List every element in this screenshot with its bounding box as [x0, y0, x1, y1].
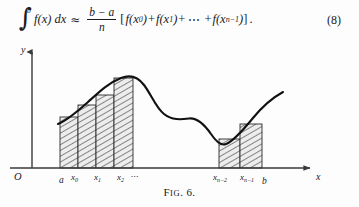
- fraction-numerator: b − a: [87, 6, 116, 19]
- tick-subscript-x1: 1: [98, 177, 101, 183]
- term-last: f(x: [212, 13, 225, 26]
- tick-label-b: b: [262, 176, 267, 186]
- tick-label-x0: x0: [70, 172, 78, 183]
- plus-2: +: [178, 13, 185, 26]
- tick-base-b: b: [262, 176, 267, 186]
- x-axis-label: x: [315, 171, 321, 182]
- approx-symbol: ≈: [70, 14, 80, 26]
- riemann-bars: [60, 78, 262, 168]
- term-2-close: ): [173, 13, 177, 26]
- bar-x1: [96, 95, 114, 168]
- term-last-subscript: n−1: [226, 16, 239, 24]
- x-tick-labels: ax0x1x2⋯xn−2xn−1b: [59, 172, 267, 186]
- bar-x0: [78, 105, 96, 168]
- integrand: f(x) dx: [34, 13, 66, 26]
- plus-1: +: [148, 13, 155, 26]
- fraction-denominator: n: [97, 20, 107, 33]
- caption-number: . 6.: [180, 186, 195, 198]
- tick-base-a: a: [59, 175, 64, 185]
- equation-ellipsis: ⋯: [186, 14, 203, 26]
- origin-label: O: [14, 171, 22, 182]
- figure-graphic: y x O ax0x1x2⋯xn−2xn−1b: [0, 38, 359, 186]
- equation-row: ∫ b a f(x) dx ≈ b − a n [ f(x0) + f(x1) …: [0, 4, 359, 38]
- plus-3: +: [204, 13, 211, 26]
- bracket-open: [: [120, 13, 124, 26]
- bar-a: [60, 117, 78, 168]
- riemann-sum-chart: y x O ax0x1x2⋯xn−2xn−1b: [0, 38, 359, 186]
- tick-label-x2: x2: [116, 172, 124, 183]
- term-2: f(x: [156, 13, 169, 26]
- tick-subscript-xn1: n−1: [244, 177, 254, 183]
- figure-page: ∫ b a f(x) dx ≈ b − a n [ f(x0) + f(x1) …: [0, 0, 359, 207]
- term-1: f(x: [126, 13, 139, 26]
- equation-period: .: [247, 13, 252, 26]
- tick-subscript-xn2: n−2: [217, 177, 227, 183]
- fraction: b − a n: [87, 6, 116, 33]
- tick-label-xn2: xn−2: [212, 172, 227, 183]
- tick-label-ellipsis: ⋯: [130, 172, 138, 181]
- tick-subscript-x2: 2: [121, 177, 124, 183]
- integral-upper-limit: b: [27, 7, 31, 15]
- tick-base-ellipsis: ⋯: [130, 172, 138, 181]
- equation-number: (8): [327, 13, 341, 28]
- figure-caption: FIG. 6.: [0, 186, 359, 198]
- bar-x2: [114, 78, 133, 168]
- tick-subscript-x0: 0: [75, 177, 78, 183]
- tick-label-xn1: xn−1: [239, 172, 254, 183]
- y-axis-label: y: [20, 44, 26, 55]
- integral-symbol: ∫ b a: [18, 7, 32, 33]
- term-1-close: ): [143, 13, 147, 26]
- tick-label-x1: x1: [93, 172, 101, 183]
- integral-lower-limit: a: [20, 25, 24, 33]
- caption-word-rest: IG: [170, 188, 180, 198]
- tick-label-a: a: [59, 175, 64, 185]
- display-equation: ∫ b a f(x) dx ≈ b − a n [ f(x0) + f(x1) …: [18, 6, 253, 33]
